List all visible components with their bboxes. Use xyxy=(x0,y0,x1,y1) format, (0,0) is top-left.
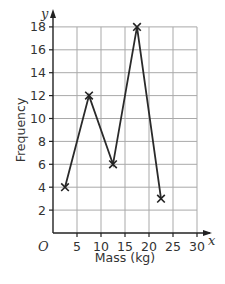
y-tick-label: 10 xyxy=(30,111,46,126)
y-tick-label: 14 xyxy=(30,65,46,80)
y-tick-label: 2 xyxy=(38,203,46,218)
y-axis-symbol: y xyxy=(40,6,49,21)
x-tick-label: 5 xyxy=(73,239,81,254)
y-tick-label: 4 xyxy=(38,180,46,195)
y-tick-label: 8 xyxy=(38,134,46,149)
y-tick-label: 18 xyxy=(30,19,46,34)
y-axis-label: Frequency xyxy=(13,97,28,162)
y-axis-arrow-icon xyxy=(50,9,56,18)
frequency-polygon-line xyxy=(65,27,161,199)
x-axis-label: Mass (kg) xyxy=(95,250,155,265)
x-axis-symbol: x xyxy=(208,233,216,248)
x-tick-label: 30 xyxy=(189,239,205,254)
axes xyxy=(49,9,212,237)
origin-label: O xyxy=(38,239,49,254)
frequency-polygon-chart: 5101520253024681012141618 Mass (kg) Freq… xyxy=(0,0,225,284)
grid-lines xyxy=(53,27,197,233)
y-tick-label: 12 xyxy=(30,88,46,103)
y-tick-label: 6 xyxy=(38,157,46,172)
x-tick-label: 25 xyxy=(165,239,181,254)
y-tick-label: 16 xyxy=(30,42,46,57)
